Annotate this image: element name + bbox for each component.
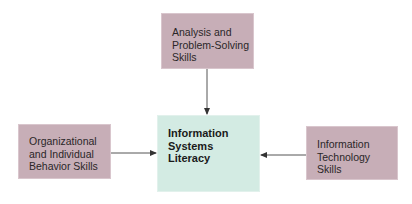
- left-box-organizational-behavior: Organizational and Individual Behavior S…: [18, 124, 111, 179]
- right-box-information-technology: Information Technology Skills: [306, 126, 398, 180]
- left-box-line-2: and Individual: [29, 148, 110, 161]
- top-box-line-1: Analysis and: [172, 26, 253, 39]
- center-box-line-3: Literacy: [168, 152, 259, 165]
- center-box-line-1: Information: [168, 127, 259, 140]
- top-box-analysis-problem-solving: Analysis and Problem-Solving Skills: [161, 13, 254, 69]
- center-box-line-2: Systems: [168, 140, 259, 153]
- right-box-line-2: Technology: [317, 151, 397, 164]
- center-box-information-systems-literacy: Information Systems Literacy: [157, 115, 260, 192]
- left-box-line-1: Organizational: [29, 135, 110, 148]
- left-box-line-3: Behavior Skills: [29, 160, 110, 173]
- right-box-line-1: Information: [317, 138, 397, 151]
- right-box-line-3: Skills: [317, 163, 397, 176]
- top-box-line-2: Problem-Solving: [172, 39, 253, 52]
- top-box-line-3: Skills: [172, 51, 253, 64]
